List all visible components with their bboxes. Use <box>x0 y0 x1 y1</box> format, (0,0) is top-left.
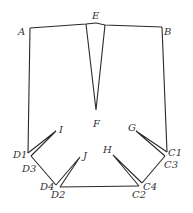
dart-J <box>56 157 80 187</box>
dart-I <box>28 131 56 156</box>
label-C1: C1 <box>168 147 182 158</box>
label-D4: D4 <box>39 181 54 192</box>
label-F: F <box>92 118 101 129</box>
right-side-B-C1 <box>162 27 167 152</box>
label-I: I <box>58 124 64 135</box>
label-C4: C4 <box>143 181 157 192</box>
pattern-diagram: A B E F G H I J C1 C2 C3 C4 D1 D2 D3 D4 <box>0 0 193 213</box>
label-E: E <box>91 10 100 21</box>
label-H: H <box>102 144 112 155</box>
label-D3: D3 <box>21 163 36 174</box>
edge-C4-C3 <box>142 156 165 183</box>
label-C3: C3 <box>164 159 178 170</box>
top-edge-right <box>96 23 162 27</box>
label-A: A <box>17 26 25 37</box>
label-B: B <box>163 26 171 37</box>
left-side-A-D1 <box>28 28 30 153</box>
bottom-edge-D2-C2 <box>60 186 139 187</box>
dart-G <box>136 131 167 156</box>
label-J: J <box>81 150 88 161</box>
label-G: G <box>128 122 136 133</box>
dart-H <box>113 155 142 186</box>
center-dart-EF <box>86 24 105 110</box>
label-D1: D1 <box>12 149 27 160</box>
